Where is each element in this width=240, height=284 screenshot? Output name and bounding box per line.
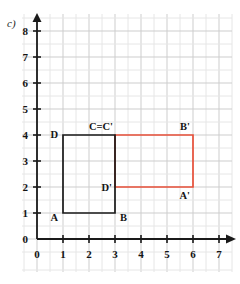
coordinate-plane: 0 1 2 3 4 5 6 7 0 1 2 3 4 5 6 7 8 A B D … [0,0,240,284]
y-tick-label-4: 4 [23,129,29,141]
y-axis-tick-labels: 0 1 2 3 4 5 6 7 8 [23,25,29,245]
x-tick-label-7: 7 [216,248,222,260]
x-tick-label-2: 2 [86,248,92,260]
vertex-label-a: A [50,212,58,223]
grid-background [22,14,232,272]
vertex-label-d: D [50,129,58,140]
x-tick-label-1: 1 [60,248,66,260]
y-tick-label-6: 6 [23,77,29,89]
y-tick-label-8: 8 [23,25,29,37]
y-tick-label-1: 1 [23,207,29,219]
vertex-label-a-prime: A' [180,190,191,201]
y-tick-label-0: 0 [23,233,29,245]
figure-canvas: c) [0,0,240,284]
y-tick-label-7: 7 [23,51,29,63]
y-tick-label-5: 5 [23,103,29,115]
y-tick-label-2: 2 [23,181,29,193]
y-tick-label-3: 3 [23,155,29,167]
vertex-label-b: B [120,212,127,223]
x-tick-label-5: 5 [164,248,170,260]
x-tick-label-6: 6 [190,248,196,260]
x-tick-label-0: 0 [34,248,40,260]
x-tick-label-4: 4 [138,248,144,260]
vertex-label-c-equals-c-prime: C=C' [89,121,113,132]
vertex-label-d-prime: D' [102,182,113,193]
x-tick-label-3: 3 [112,248,118,260]
vertex-label-b-prime: B' [180,121,190,132]
